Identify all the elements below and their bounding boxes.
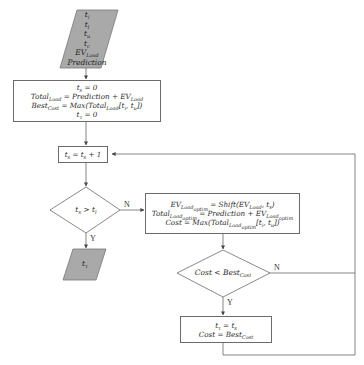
update-box: tτ = ts Cost = BestCost (180, 316, 272, 343)
decision1-no-label: N (124, 200, 130, 209)
input-tu: tu (66, 29, 108, 39)
input-tc: tc (66, 39, 108, 49)
init-total-load: TotalLoad = Prediction + EVLoad (31, 92, 143, 101)
input-node: ti tl tu tc EVLoad Prediction (66, 10, 108, 68)
input-ev-load: EVLoad (66, 48, 108, 58)
increment-box: ts = ts + 1 (58, 146, 108, 163)
decision1-condition: ts > tl (62, 205, 110, 214)
optimize-cost: Cost = Max(TotalLoadoptim[ti, tu]) (165, 218, 279, 227)
optimize-box: EVLoadoptim = Shift(EVLoad, ts) TotalLoa… (145, 193, 300, 234)
optimize-total-load-optim: TotalLoadoptim = Prediction + EVLoadopti… (152, 209, 293, 218)
update-cost: Cost = BestCost (199, 330, 254, 339)
decision1-yes-label: Y (90, 234, 96, 243)
init-t-tau: tτ = 0 (77, 110, 98, 119)
update-t-tau: tτ = ts (215, 321, 237, 330)
increment-ts: ts = ts + 1 (65, 150, 102, 159)
init-best-cost: BestCost = Max(TotalLoad[ti, tu]) (32, 101, 143, 110)
decision2-no-label: N (274, 263, 280, 272)
output-node: tτ (70, 259, 100, 269)
input-ti: ti (66, 10, 108, 20)
flowchart-edges (0, 0, 364, 365)
decision2-condition: Cost < BestCost (190, 268, 256, 277)
input-tl: tl (66, 20, 108, 30)
init-ts: ts = 0 (77, 83, 98, 92)
optimize-ev-load-optim: EVLoadoptim = Shift(EVLoad, ts) (170, 200, 274, 209)
init-process-box: ts = 0 TotalLoad = Prediction + EVLoad B… (13, 80, 161, 122)
decision2-yes-label: Y (227, 298, 233, 307)
input-prediction: Prediction (66, 58, 108, 68)
